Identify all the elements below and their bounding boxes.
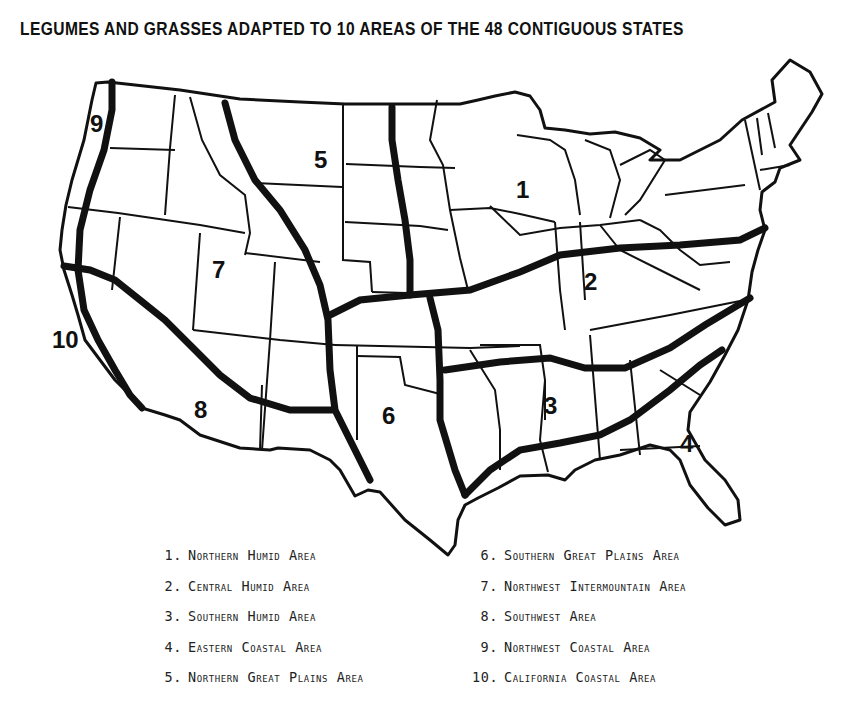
region-labels: 1 2 3 4 5 6 7 8 9 10: [52, 110, 694, 457]
region-label-9: 9: [90, 110, 103, 137]
us-map: 1 2 3 4 5 6 7 8 9 10: [0, 0, 867, 703]
region-label-3: 3: [544, 392, 557, 419]
region-label-6: 6: [382, 402, 395, 429]
legend-left: 1.Northern Humid Area 2.Central Humid Ar…: [156, 540, 363, 693]
region-label-7: 7: [212, 256, 225, 283]
region-label-1: 1: [516, 176, 529, 203]
legend-item: 6.Southern Great Plains Area: [472, 540, 686, 571]
legend-item: 1.Northern Humid Area: [156, 540, 363, 571]
region-label-2: 2: [584, 268, 597, 295]
legend-item: 9.Northwest Coastal Area: [472, 632, 686, 663]
region-label-5: 5: [314, 146, 327, 173]
legend-item: 3.Southern Humid Area: [156, 601, 363, 632]
state-borders: [68, 95, 790, 472]
legend-item: 4.Eastern Coastal Area: [156, 632, 363, 663]
region-label-4: 4: [680, 430, 694, 457]
legend-item: 10.California Coastal Area: [472, 662, 686, 693]
region-label-10: 10: [52, 326, 79, 353]
legend-item: 8.Southwest Area: [472, 601, 686, 632]
legend-right: 6.Southern Great Plains Area 7.Northwest…: [472, 540, 686, 693]
legend-item: 5.Northern Great Plains Area: [156, 662, 363, 693]
region-label-8: 8: [194, 396, 207, 423]
legend-item: 7.Northwest Intermountain Area: [472, 571, 686, 602]
region-boundaries: [64, 82, 765, 495]
legend-item: 2.Central Humid Area: [156, 571, 363, 602]
